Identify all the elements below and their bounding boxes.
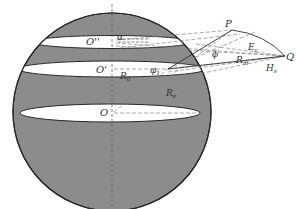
label-hs: Hs — [265, 63, 277, 74]
label-o-double-prime: O'' — [86, 36, 100, 47]
label-p: P — [224, 18, 232, 29]
label-rm: Rm — [235, 55, 249, 66]
label-o-prime: O' — [96, 64, 107, 75]
label-q: Q — [286, 51, 294, 62]
label-ec: Ec — [247, 42, 259, 53]
label-phi: ϕ — [212, 49, 218, 59]
equator-band — [20, 104, 200, 122]
label-o-center: O — [100, 107, 108, 118]
label-alpha: α — [117, 32, 123, 42]
sphere-geometry-diagram: O'' O' O α R0 φ1 Re P Q ϕ Ec Rm Hs — [0, 0, 296, 209]
